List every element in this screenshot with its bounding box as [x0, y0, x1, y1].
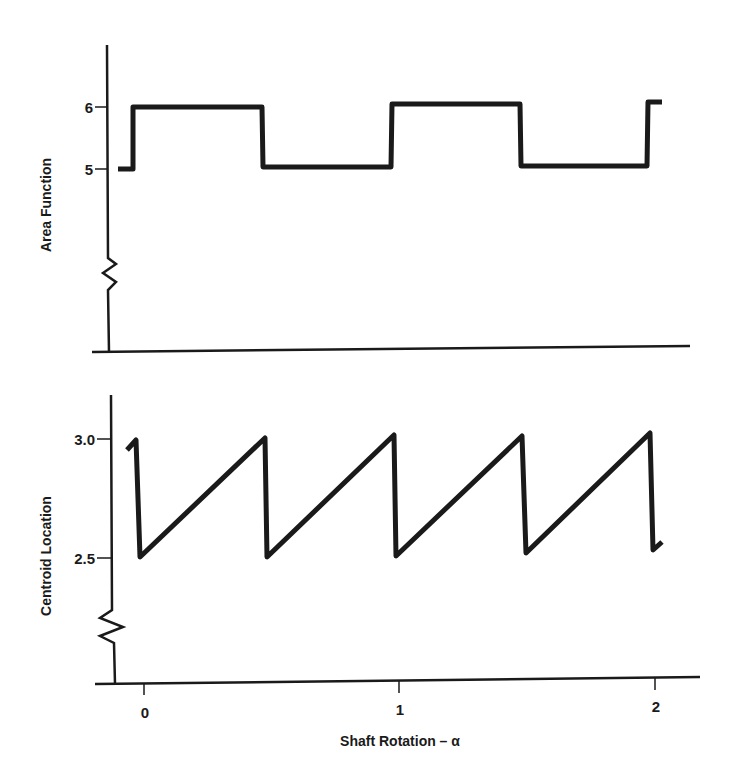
area-function-line: [118, 102, 662, 169]
top-ytick-label-5: 5: [85, 161, 93, 178]
bottom-ytick-label-30: 3.0: [74, 431, 95, 448]
bottom-x-axis: [95, 677, 700, 684]
bottom-xtick-label-0: 0: [141, 704, 149, 721]
top-y-axis-title: Area Function: [38, 158, 54, 252]
bottom-y-axis-title: Centroid Location: [38, 496, 54, 616]
top-x-axis: [92, 346, 690, 352]
bottom-ytick-label-25: 2.5: [74, 550, 95, 567]
bottom-x-axis-title: Shaft Rotation – α: [340, 733, 460, 749]
bottom-xtick-label-1: 1: [396, 701, 404, 718]
top-y-axis: [103, 45, 116, 352]
top-chart: 6 5 Area Function: [38, 45, 690, 352]
top-ytick-label-6: 6: [85, 99, 93, 116]
centroid-location-line: [127, 433, 662, 557]
bottom-xtick-label-2: 2: [652, 698, 660, 715]
figure: 6 5 Area Function 0 1 2 3.0 2.5 Centroid…: [0, 0, 729, 778]
bottom-chart: 0 1 2 3.0 2.5 Centroid Location Shaft Ro…: [38, 395, 700, 749]
